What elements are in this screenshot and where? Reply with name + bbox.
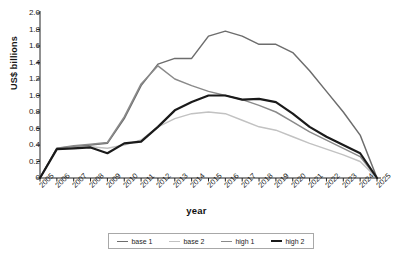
legend-item-high-2[interactable]: high 2 <box>271 238 304 245</box>
x-tick-label: 2024 <box>358 172 375 189</box>
x-tick-label: 2021 <box>307 172 324 189</box>
legend-label: base 1 <box>131 238 152 245</box>
legend-swatch-base-2-icon <box>169 241 180 242</box>
x-tick-label: 2016 <box>223 172 240 189</box>
x-tick-label: 2018 <box>257 172 274 189</box>
x-tick-label: 2007 <box>71 172 88 189</box>
line-chart: US$ billions 2.01.81.61.41.21.00.80.60.4… <box>0 0 393 255</box>
x-tick-label: 2010 <box>122 172 139 189</box>
legend-item-base-1[interactable]: base 1 <box>117 238 152 245</box>
x-tick-label: 2020 <box>290 172 307 189</box>
x-tick-label: 2009 <box>105 172 122 189</box>
x-tick-label: 2005 <box>38 172 55 189</box>
x-tick-label: 2022 <box>324 172 341 189</box>
x-tick-label: 2023 <box>341 172 358 189</box>
legend-label: base 2 <box>183 238 204 245</box>
legend-item-base-2[interactable]: base 2 <box>169 238 204 245</box>
x-tick-label: 2012 <box>155 172 172 189</box>
legend-swatch-base-1-icon <box>117 241 128 242</box>
legend-swatch-high-2-icon <box>271 240 282 242</box>
legend-label: high 2 <box>285 238 304 245</box>
x-tick-label: 2019 <box>273 172 290 189</box>
x-tick-label: 2025 <box>375 172 392 189</box>
x-tick-label: 2015 <box>206 172 223 189</box>
x-tick-label: 2011 <box>139 172 156 189</box>
x-axis-title: year <box>0 205 393 216</box>
chart-legend: base 1base 2high 1high 2 <box>108 233 314 249</box>
x-tick-label: 2008 <box>88 172 105 189</box>
legend-swatch-high-1-icon <box>221 241 232 242</box>
x-tick-label: 2017 <box>240 172 257 189</box>
legend-label: high 1 <box>235 238 254 245</box>
x-tick-label: 2006 <box>54 172 71 189</box>
legend-item-high-1[interactable]: high 1 <box>221 238 254 245</box>
x-tick-label: 2014 <box>189 172 206 189</box>
x-axis-tick-labels: 2005200620072008200920102011201220132014… <box>0 0 393 255</box>
x-tick-label: 2013 <box>172 172 189 189</box>
